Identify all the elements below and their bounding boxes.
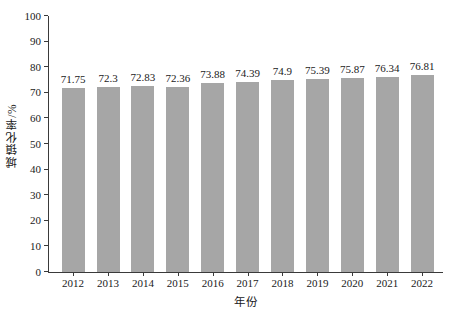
x-axis-title: 年份	[48, 293, 443, 309]
y-axis-tick: 0	[44, 271, 48, 272]
bar-group[interactable]: 72.362015	[161, 87, 195, 272]
bar-group[interactable]: 73.882016	[196, 83, 230, 272]
bar-value-label: 71.75	[61, 74, 86, 85]
y-axis-tick: 90	[44, 41, 48, 42]
bar[interactable]	[201, 83, 224, 272]
x-axis-tick	[213, 272, 214, 276]
bar-value-label: 72.3	[98, 73, 117, 84]
x-axis-tick	[282, 272, 283, 276]
x-axis-tick	[143, 272, 144, 276]
y-axis-tick-label: 40	[30, 164, 41, 175]
bar-value-label: 75.87	[340, 64, 365, 75]
x-axis-tick-label: 2022	[411, 278, 433, 289]
y-axis-tick: 20	[44, 220, 48, 221]
bar-value-label: 74.39	[235, 68, 260, 79]
x-axis-tick-label: 2020	[341, 278, 363, 289]
bar-group[interactable]: 71.752012	[56, 88, 90, 272]
bar-value-label: 76.34	[375, 63, 400, 74]
y-axis-tick: 50	[44, 143, 48, 144]
x-axis-tick-label: 2014	[132, 278, 154, 289]
x-axis-tick-label: 2019	[306, 278, 328, 289]
bar[interactable]	[131, 86, 154, 272]
chart-figure: 城镇化率/% 0102030405060708090100 71.7520127…	[0, 0, 457, 314]
x-axis-tick	[178, 272, 179, 276]
y-axis-tick-label: 10	[30, 240, 41, 251]
bar[interactable]	[306, 79, 329, 272]
plot-area: 0102030405060708090100 71.75201272.32013…	[48, 16, 443, 272]
bar[interactable]	[376, 77, 399, 272]
x-axis-tick	[317, 272, 318, 276]
bar[interactable]	[271, 80, 294, 272]
x-axis-tick	[387, 272, 388, 276]
bar[interactable]	[62, 88, 85, 272]
x-axis-tick	[248, 272, 249, 276]
bar-value-label: 73.88	[200, 69, 225, 80]
bar-group[interactable]: 75.872020	[335, 78, 369, 272]
bar-value-label: 72.83	[131, 72, 156, 83]
y-axis-tick: 10	[44, 245, 48, 246]
x-axis-tick	[422, 272, 423, 276]
bar-group[interactable]: 72.32013	[91, 87, 125, 272]
y-axis-tick-label: 80	[30, 61, 41, 72]
x-axis-tick-label: 2018	[271, 278, 293, 289]
y-axis-tick: 60	[44, 117, 48, 118]
x-axis-tick-label: 2021	[376, 278, 398, 289]
y-axis-tick-label: 100	[25, 10, 42, 21]
y-axis-tick-label: 30	[30, 189, 41, 200]
x-axis-tick	[108, 272, 109, 276]
x-axis-tick	[73, 272, 74, 276]
y-axis-tick-label: 90	[30, 36, 41, 47]
y-axis-title-text: 城镇化率/%	[4, 104, 20, 168]
y-axis-tick-label: 50	[30, 138, 41, 149]
x-axis-tick	[352, 272, 353, 276]
y-axis-title: 城镇化率/%	[2, 0, 22, 272]
y-axis-tick-label: 70	[30, 87, 41, 98]
bar[interactable]	[411, 75, 434, 272]
bar[interactable]	[166, 87, 189, 272]
bar-group[interactable]: 74.392017	[231, 82, 265, 272]
bar-group[interactable]: 75.392019	[300, 79, 334, 272]
y-axis-tick: 100	[44, 15, 48, 16]
y-axis-tick: 30	[44, 194, 48, 195]
y-axis-tick-label: 60	[30, 112, 41, 123]
bar[interactable]	[97, 87, 120, 272]
x-axis-tick-label: 2015	[167, 278, 189, 289]
y-axis-tick: 40	[44, 169, 48, 170]
bar-group[interactable]: 76.812022	[405, 75, 439, 272]
bar-value-label: 76.81	[410, 61, 435, 72]
bar[interactable]	[236, 82, 259, 272]
y-axis-tick: 70	[44, 92, 48, 93]
bar-group[interactable]: 74.92018	[265, 80, 299, 272]
x-axis-tick-label: 2013	[97, 278, 119, 289]
y-axis-tick-label: 0	[36, 266, 42, 277]
x-axis-tick-label: 2017	[237, 278, 259, 289]
bar-value-label: 74.9	[273, 66, 292, 77]
y-axis-tick: 80	[44, 66, 48, 67]
bar-group[interactable]: 72.832014	[126, 86, 160, 272]
bar-value-label: 75.39	[305, 65, 330, 76]
y-axis-tick-label: 20	[30, 215, 41, 226]
x-axis-tick-label: 2016	[202, 278, 224, 289]
bar-group[interactable]: 76.342021	[370, 77, 404, 272]
y-axis-line	[48, 16, 49, 272]
bar[interactable]	[341, 78, 364, 272]
x-axis-tick-label: 2012	[62, 278, 84, 289]
bar-value-label: 72.36	[165, 73, 190, 84]
